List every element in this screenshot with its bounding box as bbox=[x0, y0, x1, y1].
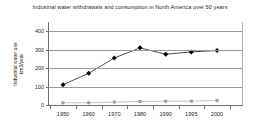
plot-right-border bbox=[242, 22, 243, 105]
x-axis-tick-label: 1990 bbox=[159, 111, 171, 118]
y-axis-label: Industrial water use km3/year bbox=[11, 22, 25, 106]
x-axis-tick-label: 2000 bbox=[211, 111, 223, 118]
plot-area: 0100200300400195019601970198019901995200… bbox=[48, 22, 243, 106]
data-point-marker bbox=[163, 52, 168, 57]
x-axis-tick bbox=[127, 105, 128, 109]
chart-container: Industrial water withdrawals and consump… bbox=[0, 0, 260, 132]
x-axis-tick-label: 1970 bbox=[108, 111, 120, 118]
gridline bbox=[49, 87, 243, 88]
x-axis-tick-label: 1980 bbox=[134, 111, 146, 118]
y-axis-tick-label: 100 bbox=[35, 84, 44, 90]
gridline bbox=[49, 68, 243, 69]
x-axis-tick bbox=[179, 105, 180, 109]
x-axis-tick bbox=[76, 105, 77, 109]
gridline bbox=[49, 31, 243, 32]
data-point-marker bbox=[190, 100, 193, 103]
y-axis-label-line-2: km3/year bbox=[18, 42, 24, 85]
x-axis-tick bbox=[153, 105, 154, 109]
x-axis-tick-label: 1995 bbox=[185, 111, 197, 118]
x-axis-tick bbox=[102, 105, 103, 109]
data-point-marker bbox=[113, 101, 116, 104]
y-axis-tick-label: 300 bbox=[35, 47, 44, 53]
data-point-marker bbox=[164, 100, 167, 103]
y-axis-tick-label: 0 bbox=[41, 102, 44, 108]
x-axis-tick bbox=[230, 105, 231, 109]
y-axis-tick-label: 400 bbox=[35, 28, 44, 34]
y-axis-tick bbox=[46, 68, 49, 69]
x-axis-tick bbox=[204, 105, 205, 109]
data-point-marker bbox=[112, 55, 117, 60]
gridline bbox=[49, 50, 243, 51]
chart-title: Industrial water withdrawals and consump… bbox=[0, 3, 260, 11]
data-point-marker bbox=[87, 101, 90, 104]
x-axis-tick-label: 1950 bbox=[57, 111, 69, 118]
y-axis-tick bbox=[46, 50, 49, 51]
data-point-marker bbox=[62, 101, 65, 104]
data-point-marker bbox=[86, 71, 91, 76]
x-axis-tick-label: 1960 bbox=[82, 111, 94, 118]
series-line bbox=[63, 48, 217, 85]
data-point-marker bbox=[216, 99, 219, 102]
x-axis-tick bbox=[50, 105, 51, 109]
y-axis-tick bbox=[46, 87, 49, 88]
y-axis-tick-label: 200 bbox=[35, 65, 44, 71]
data-point-marker bbox=[139, 100, 142, 103]
data-series-layer bbox=[49, 22, 243, 105]
y-axis-tick bbox=[46, 31, 49, 32]
y-axis-tick bbox=[46, 105, 49, 106]
